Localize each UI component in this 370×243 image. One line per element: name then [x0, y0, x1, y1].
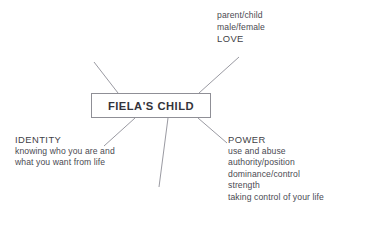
connector-lines — [0, 0, 370, 243]
branch-love-item-2: male/female — [217, 22, 265, 34]
branch-love-heading: LOVE — [217, 33, 265, 45]
diagram-canvas: FIELA'S CHILD parent/child male/female L… — [0, 0, 370, 243]
center-node: FIELA'S CHILD — [91, 93, 211, 118]
branch-identity-item-2: what you want from life — [15, 157, 115, 169]
connector-top-left — [94, 62, 118, 93]
branch-love-item-1: parent/child — [217, 10, 265, 22]
connector-bottom-right — [198, 118, 227, 143]
connector-bottom-center — [159, 118, 168, 187]
branch-power-item-4: strength — [228, 180, 324, 192]
branch-power: POWER use and abuse authority/position d… — [228, 134, 324, 204]
branch-power-item-2: authority/position — [228, 157, 324, 169]
branch-identity-item-1: knowing who you are and — [15, 146, 115, 158]
branch-love: parent/child male/female LOVE — [217, 10, 265, 45]
connector-top-right — [199, 57, 239, 93]
branch-power-item-1: use and abuse — [228, 146, 324, 158]
center-node-label: FIELA'S CHILD — [108, 100, 194, 112]
branch-power-heading: POWER — [228, 134, 324, 146]
branch-identity: IDENTITY knowing who you are and what yo… — [15, 134, 115, 169]
branch-power-item-3: dominance/control — [228, 169, 324, 181]
branch-identity-heading: IDENTITY — [15, 134, 115, 146]
branch-power-item-5: taking control of your life — [228, 192, 324, 204]
